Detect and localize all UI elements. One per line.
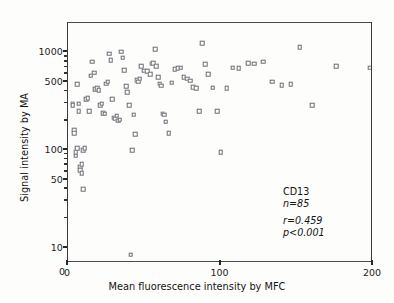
data-point <box>200 41 205 46</box>
data-point <box>90 60 95 65</box>
data-point <box>87 109 92 114</box>
data-point <box>310 103 315 108</box>
data-point <box>99 101 104 106</box>
data-point <box>118 117 123 122</box>
data-point <box>203 62 208 67</box>
data-point <box>206 72 211 77</box>
data-point <box>121 56 126 61</box>
data-point <box>169 80 174 85</box>
data-point <box>96 88 101 93</box>
y-axis-title: Signal intensity by MA <box>19 68 30 228</box>
data-point <box>237 66 242 71</box>
data-point <box>70 103 75 108</box>
data-point <box>128 252 133 257</box>
data-point <box>76 109 81 114</box>
data-point <box>154 64 159 69</box>
data-point <box>261 60 266 65</box>
data-point <box>75 146 80 151</box>
data-point <box>79 162 84 167</box>
data-point <box>166 131 171 136</box>
annotation-sample-size: n=85 <box>283 198 325 210</box>
data-point <box>162 112 167 117</box>
data-point <box>279 83 284 88</box>
data-point <box>81 187 86 192</box>
data-point <box>133 132 138 137</box>
data-point <box>86 96 91 101</box>
data-point <box>298 45 303 50</box>
data-point <box>179 65 184 70</box>
data-point <box>108 58 113 63</box>
data-point <box>153 47 158 52</box>
data-point <box>215 109 220 114</box>
data-point <box>76 101 81 106</box>
x-tick-label: 100 <box>210 267 228 278</box>
data-point <box>130 148 135 153</box>
data-point <box>107 51 112 56</box>
data-point <box>246 61 251 66</box>
data-point <box>159 84 164 89</box>
data-point <box>127 103 132 108</box>
data-point <box>82 146 87 151</box>
y-tick-label: 1000 <box>38 46 63 57</box>
data-point <box>119 49 124 54</box>
x-tick-label: 200 <box>363 267 381 278</box>
data-point <box>72 131 77 136</box>
data-point <box>105 80 110 85</box>
y-tick-label: 10 <box>51 241 63 252</box>
data-point <box>218 150 223 155</box>
x-tick-label: 0 <box>64 267 70 278</box>
data-point <box>92 70 97 75</box>
data-point <box>102 112 107 117</box>
y-tick-label: 100 <box>45 144 63 155</box>
y-tick-label: 50 <box>51 173 63 184</box>
data-point <box>252 61 257 66</box>
data-point <box>110 97 115 102</box>
data-point <box>73 153 78 158</box>
annotation-correlation: r=0.459 <box>283 215 325 227</box>
data-point <box>211 85 216 90</box>
annotation-pvalue: p<0.001 <box>283 227 325 239</box>
data-point <box>230 65 235 70</box>
data-point <box>122 68 127 73</box>
data-point <box>163 120 168 125</box>
data-point <box>79 171 84 176</box>
data-point <box>224 86 229 91</box>
data-point <box>137 76 142 81</box>
plot-frame <box>67 22 372 262</box>
data-point <box>156 75 161 80</box>
statistics-annotation: CD13 n=85 r=0.459 p<0.001 <box>283 186 325 238</box>
data-point <box>75 82 80 87</box>
data-point <box>124 84 129 89</box>
data-points-layer <box>68 23 371 261</box>
data-point <box>288 82 293 87</box>
x-tick <box>66 260 68 265</box>
x-axis-title: Mean fluorescence intensity by MFC <box>0 281 394 292</box>
annotation-marker-label: CD13 <box>283 186 325 198</box>
data-point <box>270 80 275 85</box>
data-point <box>131 112 136 117</box>
x-tick <box>371 260 373 265</box>
scatter-plot-figure: Signal intensity by MA 10501005001000 0 … <box>0 0 394 303</box>
data-point <box>368 65 371 70</box>
data-point <box>197 109 202 114</box>
data-point <box>194 86 199 91</box>
y-tick-label: 500 <box>45 75 63 86</box>
data-point <box>334 64 339 69</box>
data-point <box>148 72 153 77</box>
x-tick <box>219 260 221 265</box>
data-point <box>125 90 130 95</box>
data-point <box>188 78 193 83</box>
